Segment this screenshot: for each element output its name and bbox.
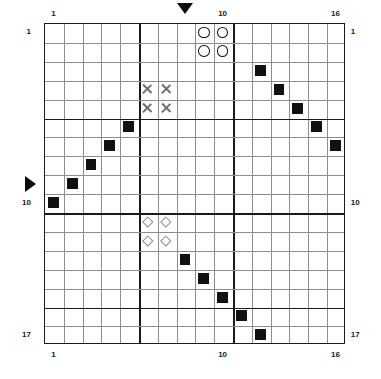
grid-hline-12	[45, 251, 344, 252]
grid-vline-3	[101, 24, 102, 343]
bottom-label-1: 1	[51, 351, 55, 359]
ship-square-marker[interactable]	[255, 65, 266, 76]
circle-marker[interactable]	[198, 27, 210, 39]
ship-square-marker[interactable]	[198, 273, 209, 284]
ship-square-marker[interactable]	[274, 84, 285, 95]
grid-hline-7	[45, 156, 344, 157]
grid-hline-16	[45, 326, 344, 327]
ship-square-marker[interactable]	[330, 140, 341, 151]
cross-marker[interactable]	[142, 83, 154, 95]
ship-square-marker[interactable]	[48, 197, 59, 208]
left-label-1: 1	[27, 28, 31, 36]
grid-hline-1	[45, 43, 344, 44]
ship-square-marker[interactable]	[123, 121, 134, 132]
grid-hline-10	[45, 213, 344, 215]
grid-hline-15	[45, 308, 344, 310]
ship-square-marker[interactable]	[217, 292, 228, 303]
grid-hline-11	[45, 232, 344, 233]
grid-vline-8	[195, 24, 196, 343]
right-label-10: 10	[351, 199, 360, 207]
grid-hline-3	[45, 81, 344, 82]
grid-vline-7	[177, 24, 178, 343]
circle-marker[interactable]	[198, 45, 210, 57]
grid-vline-15	[327, 24, 328, 343]
grid-vline-2	[83, 24, 84, 343]
grid-vline-13	[289, 24, 290, 343]
grid-hline-6	[45, 137, 344, 138]
grid-vline-14	[308, 24, 309, 343]
puzzle-grid[interactable]	[44, 23, 345, 344]
cross-marker[interactable]	[142, 102, 154, 114]
grid-hline-8	[45, 175, 344, 176]
top-pointer-icon	[177, 3, 193, 14]
bottom-label-10: 10	[218, 351, 227, 359]
grid-vline-1	[64, 24, 65, 343]
ship-square-marker[interactable]	[180, 254, 191, 265]
cross-marker[interactable]	[160, 102, 172, 114]
left-label-17: 17	[22, 331, 31, 339]
right-label-1: 1	[351, 28, 355, 36]
top-label-16: 16	[331, 10, 340, 18]
ship-square-marker[interactable]	[104, 140, 115, 151]
top-label-10: 10	[218, 10, 227, 18]
grid-hline-4	[45, 100, 344, 101]
ship-square-marker[interactable]	[255, 329, 266, 340]
grid-vline-10	[233, 24, 235, 343]
ship-square-marker[interactable]	[86, 159, 97, 170]
bottom-label-16: 16	[331, 351, 340, 359]
grid-vline-12	[271, 24, 272, 343]
grid-hline-14	[45, 289, 344, 290]
left-label-10: 10	[22, 199, 31, 207]
top-label-1: 1	[51, 10, 55, 18]
left-pointer-icon	[25, 176, 36, 192]
ship-square-marker[interactable]	[311, 121, 322, 132]
right-label-17: 17	[351, 331, 360, 339]
grid-hline-2	[45, 62, 344, 63]
puzzle-canvas: 11016110161101711017	[0, 0, 381, 379]
ship-square-marker[interactable]	[67, 178, 78, 189]
grid-hline-5	[45, 119, 344, 121]
ship-square-marker[interactable]	[292, 103, 303, 114]
cross-marker[interactable]	[160, 83, 172, 95]
grid-vline-9	[214, 24, 215, 343]
grid-vline-4	[120, 24, 121, 343]
grid-vline-6	[158, 24, 159, 343]
ship-square-marker[interactable]	[236, 310, 247, 321]
grid-vline-11	[252, 24, 253, 343]
grid-vline-5	[139, 24, 141, 343]
grid-hline-13	[45, 270, 344, 271]
grid-hline-9	[45, 194, 344, 195]
